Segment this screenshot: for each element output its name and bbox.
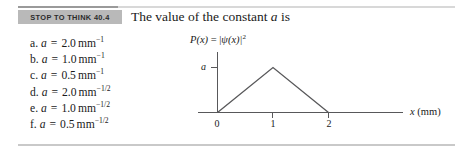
answer-option-a[interactable]: a.a=2.0mm−1	[30, 36, 111, 52]
answer-options-list: a.a=2.0mm−1 b.a=1.0mm−1 c.a=0.5mm−1 d.a=…	[30, 36, 111, 133]
option-unit: mm	[79, 53, 97, 66]
bottom-divider-rule	[18, 144, 455, 146]
option-letter: d.	[30, 86, 39, 99]
option-exponent: −1	[97, 51, 105, 60]
option-equals: =	[46, 118, 61, 131]
option-variable: a	[37, 118, 46, 131]
option-unit: mm	[78, 69, 96, 82]
question-variable: a	[271, 9, 278, 24]
option-exponent: −1	[96, 35, 104, 44]
question-suffix: is	[278, 9, 290, 24]
stop-to-think-badge-label: STOP TO THINK 40.4	[30, 13, 109, 22]
answer-option-c[interactable]: c.a=0.5mm−1	[30, 68, 111, 84]
option-letter: a.	[30, 37, 38, 50]
option-variable: a	[38, 37, 47, 50]
option-equals: =	[47, 69, 62, 82]
answer-option-f[interactable]: f.a=0.5mm−1/2	[30, 117, 111, 133]
option-variable: a	[38, 102, 47, 115]
stop-to-think-badge: STOP TO THINK 40.4	[18, 10, 122, 24]
option-exponent: −1/2	[96, 100, 110, 109]
option-letter: b.	[30, 53, 39, 66]
answer-option-b[interactable]: b.a=1.0mm−1	[30, 52, 111, 68]
option-equals: =	[47, 102, 62, 115]
answer-option-e[interactable]: e.a=1.0mm−1/2	[30, 101, 111, 117]
option-letter: c.	[30, 69, 38, 82]
option-value: 0.5	[61, 69, 78, 82]
option-unit: mm	[78, 37, 96, 50]
option-value: 2.0	[62, 86, 79, 99]
answer-option-d[interactable]: d.a=2.0mm−1/2	[30, 85, 111, 101]
option-exponent: −1	[96, 68, 104, 77]
question-prefix: The value of the constant	[131, 9, 271, 24]
option-letter: e.	[30, 102, 38, 115]
option-exponent: −1/2	[97, 84, 111, 93]
triangular-distribution-plot	[160, 30, 450, 135]
option-variable: a	[39, 53, 48, 66]
option-letter: f.	[30, 118, 37, 131]
stop-to-think-problem-panel: STOP TO THINK 40.4 The value of the cons…	[0, 0, 463, 154]
question-prompt: The value of the constant a is	[131, 8, 290, 25]
top-divider-accent	[18, 6, 118, 8]
option-equals: =	[48, 53, 63, 66]
probability-density-curve	[218, 68, 329, 113]
option-equals: =	[47, 37, 62, 50]
option-variable: a	[39, 86, 48, 99]
option-equals: =	[48, 86, 63, 99]
option-value: 2.0	[61, 37, 78, 50]
option-unit: mm	[77, 118, 95, 131]
option-variable: a	[38, 69, 47, 82]
option-unit: mm	[79, 86, 97, 99]
option-unit: mm	[78, 102, 96, 115]
probability-density-chart: P(x) = |ψ(x)|2 a 0 1 2 x (mm)	[160, 30, 450, 135]
option-value: 0.5	[60, 118, 77, 131]
option-value: 1.0	[62, 53, 79, 66]
option-value: 1.0	[61, 102, 78, 115]
option-exponent: −1/2	[95, 116, 109, 125]
